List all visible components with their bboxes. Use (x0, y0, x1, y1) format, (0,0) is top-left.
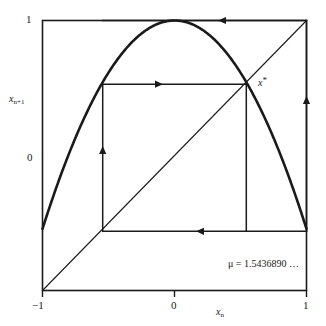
arrowhead-left-lower (196, 228, 204, 235)
x-tick-label-0: 0 (171, 300, 177, 311)
arrowhead-up-left (99, 146, 106, 154)
cobweb-diagram-figure: 1 0 −1 0 1 xn+1 xn x* μ = 1.5436890 … (0, 0, 326, 326)
arrowhead-top (218, 17, 226, 24)
x-axis-title: xn (216, 307, 224, 317)
plot-canvas (0, 0, 326, 326)
y-tick-label-1: 1 (26, 14, 32, 25)
map-curve (43, 21, 307, 229)
x-tick-label-minus-1: −1 (32, 300, 44, 311)
x-axis-title-subscript: n (220, 311, 224, 319)
y-axis-title-subscript: n+1 (13, 98, 24, 106)
map-curve-path (43, 21, 307, 229)
arrowhead-right-upper (155, 81, 163, 88)
identity-diagonal (43, 21, 307, 291)
arrowhead-up-right (303, 96, 310, 104)
fixed-point-label-star: * (262, 75, 267, 85)
diagonal-line (43, 21, 307, 291)
x-tick-label-1: 1 (303, 300, 309, 311)
y-tick-label-0: 0 (27, 152, 33, 163)
y-axis-title: xn+1 (9, 94, 24, 104)
tick-marks (43, 21, 307, 298)
parameter-annotation: μ = 1.5436890 … (228, 259, 299, 269)
fixed-point-label: x* (258, 78, 267, 88)
